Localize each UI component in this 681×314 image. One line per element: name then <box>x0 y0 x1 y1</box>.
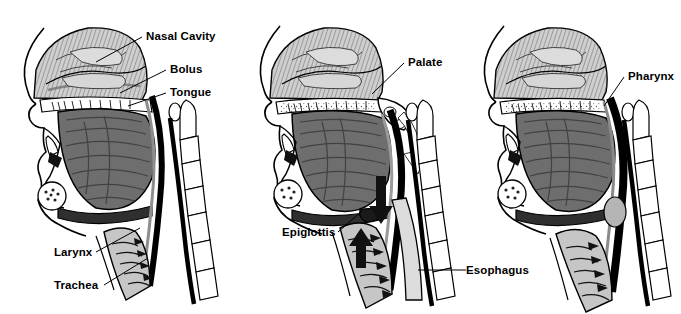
anatomy-figure: Nasal Cavity Bolus Tongue Larynx Trachea <box>0 0 681 314</box>
panel-1-leader-lines <box>0 0 240 314</box>
panel-oral-preparatory-phase: Nasal Cavity Bolus Tongue Larynx Trachea <box>0 0 240 314</box>
label-bolus: Bolus <box>170 63 202 75</box>
leader-epiglottis <box>338 211 362 232</box>
label-larynx: Larynx <box>54 246 92 258</box>
label-palate: Palate <box>408 56 442 68</box>
label-trachea: Trachea <box>54 279 98 291</box>
leader-bolus <box>120 70 166 93</box>
label-pharynx: Pharynx <box>628 70 674 82</box>
panel-3-leader-lines <box>470 0 681 314</box>
leader-palate <box>372 63 404 94</box>
leader-pharynx <box>604 77 624 106</box>
leader-nasal-cavity <box>96 37 142 62</box>
leader-tongue <box>128 93 166 106</box>
leader-larynx <box>96 228 140 252</box>
panel-pharyngeal-phase: Palate Epiglottis Esophagus <box>240 0 470 314</box>
label-epiglottis: Epiglottis <box>282 226 335 238</box>
label-tongue: Tongue <box>170 86 211 98</box>
panel-2-leader-lines <box>240 0 470 314</box>
panel-esophageal-phase: Pharynx <box>470 0 681 314</box>
leader-trachea <box>104 258 148 285</box>
label-nasal-cavity: Nasal Cavity <box>146 30 216 42</box>
